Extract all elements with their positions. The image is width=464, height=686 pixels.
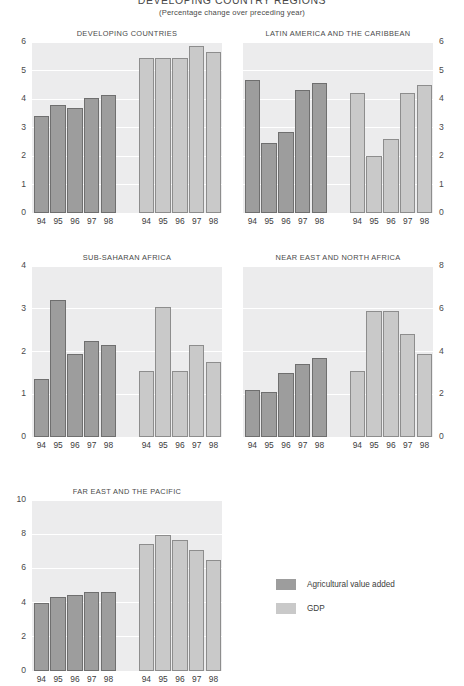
x-axis-tick-label: 98 xyxy=(311,441,329,449)
bar-group-agricultural-value-added xyxy=(32,266,117,437)
chart-panel-latin-america-and-the-caribbean: LATIN AMERICA AND THE CARIBBEAN012345694… xyxy=(243,42,433,239)
x-axis-tick-label: 95 xyxy=(49,217,67,225)
x-axis-tick-label: 95 xyxy=(154,675,172,683)
x-axis-tick-label: 96 xyxy=(277,441,295,449)
y-axis-tick-label: 8 xyxy=(439,261,444,270)
bar xyxy=(155,307,171,437)
x-axis-tick-label: 96 xyxy=(382,217,400,225)
bar-group-gdp xyxy=(137,266,222,437)
bar xyxy=(400,93,416,213)
x-axis-tick-label: 98 xyxy=(205,217,223,225)
x-axis-tick-label: 95 xyxy=(260,441,278,449)
bar xyxy=(206,362,222,437)
x-axis-tick-label: 94 xyxy=(244,441,262,449)
y-axis-tick-label: 1 xyxy=(439,180,444,189)
bar xyxy=(50,300,66,437)
bar xyxy=(189,345,205,437)
bar xyxy=(34,603,50,671)
bar xyxy=(67,354,83,437)
y-axis-tick-label: 0 xyxy=(439,208,444,217)
plot-area-near-east-and-north-africa xyxy=(243,266,433,437)
y-axis-tick-label: 3 xyxy=(10,123,26,132)
x-axis-tick-label: 97 xyxy=(83,441,101,449)
bar xyxy=(312,83,328,213)
bar xyxy=(261,392,277,437)
bar xyxy=(295,364,311,437)
panel-title-developing-countries: DEVELOPING COUNTRIES xyxy=(32,29,222,38)
bar xyxy=(139,58,155,213)
plot-area-developing-countries xyxy=(32,42,222,213)
y-axis-tick-label: 4 xyxy=(10,261,26,270)
y-axis-tick-label: 1 xyxy=(10,180,26,189)
x-axis-tick-label: 97 xyxy=(294,217,312,225)
x-axis-tick-label: 95 xyxy=(365,217,383,225)
bar xyxy=(172,540,188,671)
bar xyxy=(400,334,416,437)
bar-group-gdp xyxy=(348,42,433,213)
bar-group-gdp xyxy=(137,500,222,671)
y-axis-tick-label: 5 xyxy=(439,66,444,75)
bar xyxy=(417,354,433,437)
x-axis-tick-label: 98 xyxy=(205,675,223,683)
x-axis-tick-label: 95 xyxy=(154,441,172,449)
bar xyxy=(101,592,117,671)
x-axis-tick-label: 95 xyxy=(365,441,383,449)
x-axis-tick-label: 96 xyxy=(171,675,189,683)
bar xyxy=(101,95,117,213)
legend-label-agricultural-value-added: Agricultural value added xyxy=(307,578,395,591)
bar xyxy=(101,345,117,437)
figure-subtitle: (Percentage change over preceding year) xyxy=(0,8,464,17)
plot-area-latin-america-and-the-caribbean xyxy=(243,42,433,213)
y-axis-tick-label: 2 xyxy=(439,151,444,160)
bar xyxy=(245,390,261,437)
panel-title-far-east-and-the-pacific: FAR EAST AND THE PACIFIC xyxy=(32,487,222,496)
chart-panel-developing-countries: DEVELOPING COUNTRIES01234569495969798949… xyxy=(32,42,222,239)
x-axis-tick-label: 97 xyxy=(399,441,417,449)
bar xyxy=(155,535,171,671)
y-axis-tick-label: 1 xyxy=(10,389,26,398)
y-axis-tick-label: 4 xyxy=(439,347,444,356)
y-axis-tick-label: 3 xyxy=(439,123,444,132)
x-axis-tick-label: 97 xyxy=(83,675,101,683)
x-axis-tick-label: 95 xyxy=(154,217,172,225)
x-axis-tick-label: 98 xyxy=(416,441,434,449)
x-axis-tick-label: 98 xyxy=(416,217,434,225)
bar-group-gdp xyxy=(348,266,433,437)
panel-title-latin-america-and-the-caribbean: LATIN AMERICA AND THE CARIBBEAN xyxy=(243,29,433,38)
y-axis-tick-label: 6 xyxy=(10,563,26,572)
y-axis-tick-label: 2 xyxy=(10,151,26,160)
x-axis-tick-label: 94 xyxy=(33,675,51,683)
x-axis-tick-label: 96 xyxy=(171,217,189,225)
x-axis-tick-label: 95 xyxy=(49,441,67,449)
x-axis-tick-label: 94 xyxy=(33,217,51,225)
panel-title-near-east-and-north-africa: NEAR EAST AND NORTH AFRICA xyxy=(243,253,433,262)
x-axis-tick-label: 96 xyxy=(382,441,400,449)
y-axis-tick-label: 6 xyxy=(439,304,444,313)
x-axis-tick-label: 96 xyxy=(66,675,84,683)
bar-group-agricultural-value-added xyxy=(243,42,328,213)
bar xyxy=(139,371,155,437)
legend: Agricultural value added GDP xyxy=(276,578,456,618)
y-axis-tick-label: 2 xyxy=(10,347,26,356)
plot-area-far-east-and-the-pacific xyxy=(32,500,222,671)
bar xyxy=(383,139,399,213)
x-axis-tick-label: 95 xyxy=(49,675,67,683)
x-axis-tick-label: 98 xyxy=(311,217,329,225)
y-axis-tick-label: 2 xyxy=(10,632,26,641)
bar xyxy=(278,373,294,437)
y-axis-tick-label: 0 xyxy=(10,666,26,675)
bar-group-agricultural-value-added xyxy=(32,500,117,671)
x-axis-tick-label: 94 xyxy=(138,217,156,225)
x-axis-tick-label: 97 xyxy=(188,217,206,225)
y-axis-tick-label: 6 xyxy=(439,37,444,46)
bar xyxy=(312,358,328,437)
x-axis-tick-label: 94 xyxy=(138,675,156,683)
bar-group-agricultural-value-added xyxy=(243,266,328,437)
bar xyxy=(206,560,222,671)
x-axis-tick-label: 95 xyxy=(260,217,278,225)
bar xyxy=(34,379,50,437)
plot-area-sub-saharan-africa xyxy=(32,266,222,437)
x-axis-tick-label: 97 xyxy=(83,217,101,225)
chart-panel-near-east-and-north-africa: NEAR EAST AND NORTH AFRICA02468949596979… xyxy=(243,266,433,463)
x-axis-tick-label: 96 xyxy=(277,217,295,225)
